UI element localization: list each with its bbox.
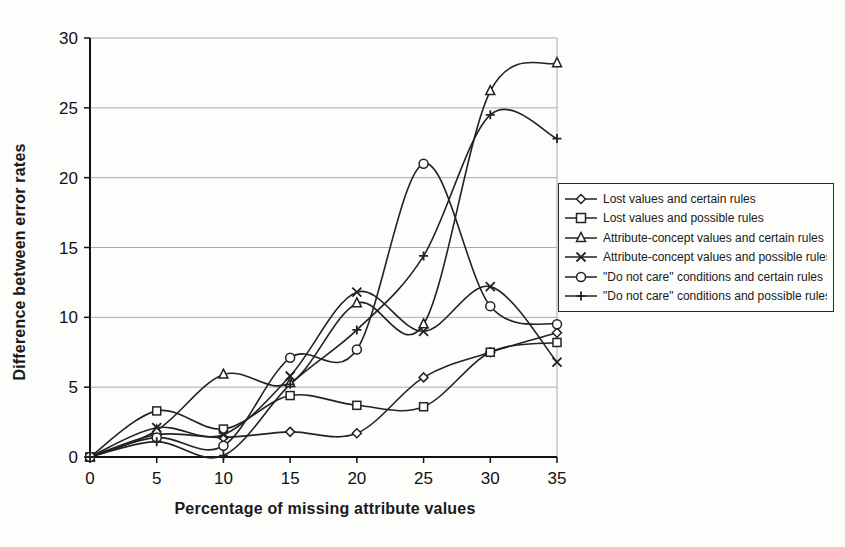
marker-square [486, 348, 494, 356]
x-tick-label-0: 0 [85, 469, 94, 488]
y-tick-label-0: 0 [69, 448, 78, 467]
legend-diamond-icon [565, 192, 597, 206]
x-tick-label-10: 10 [214, 469, 233, 488]
chart-legend: Lost values and certain rulesLost values… [558, 183, 834, 312]
marker-diamond [352, 429, 361, 438]
marker-diamond [286, 427, 295, 436]
marker-square [420, 403, 428, 411]
legend-square-icon [565, 211, 597, 225]
line-chart-figure: 05101520253005101520253035 Difference be… [0, 0, 845, 547]
x-tick-label-15: 15 [281, 469, 300, 488]
legend-label: Attribute-concept values and possible ru… [603, 250, 827, 264]
marker-circle [553, 320, 562, 329]
marker-square [286, 392, 294, 400]
legend-item-3: Attribute-concept values and certain rul… [565, 228, 827, 248]
marker-circle [286, 353, 295, 362]
x-tick-label-5: 5 [152, 469, 161, 488]
y-axis-title: Difference between error rates [11, 117, 35, 407]
marker-plus [219, 451, 228, 460]
marker-diamond [419, 373, 428, 382]
y-tick-label-10: 10 [59, 308, 78, 327]
y-tick-label-20: 20 [59, 169, 78, 188]
marker-triangle [553, 58, 562, 67]
legend-label: Lost values and possible rules [603, 211, 764, 225]
legend-item-4: Attribute-concept values and possible ru… [565, 248, 827, 268]
marker-circle [486, 302, 495, 311]
x-tick-label-35: 35 [548, 469, 567, 488]
legend-circle-icon [565, 270, 597, 284]
legend-label: "Do not care" conditions and possible ru… [603, 289, 827, 303]
legend-plus-icon [565, 289, 597, 303]
legend-label: Attribute-concept values and certain rul… [603, 231, 824, 245]
y-tick-label-25: 25 [59, 99, 78, 118]
legend-x-icon [565, 250, 597, 264]
legend-item-5: "Do not care" conditions and certain rul… [565, 267, 827, 287]
marker-square [353, 401, 361, 409]
x-tick-label-30: 30 [481, 469, 500, 488]
legend-item-6: "Do not care" conditions and possible ru… [565, 287, 827, 307]
x-tick-label-25: 25 [414, 469, 433, 488]
x-axis-title: Percentage of missing attribute values [110, 500, 540, 518]
marker-square [553, 338, 561, 346]
marker-square [153, 407, 161, 415]
marker-circle [219, 441, 228, 450]
marker-circle [352, 345, 361, 354]
marker-circle [419, 159, 428, 168]
y-tick-label-30: 30 [59, 29, 78, 48]
y-tick-label-5: 5 [69, 378, 78, 397]
legend-item-1: Lost values and certain rules [565, 189, 827, 209]
legend-triangle-icon [565, 231, 597, 245]
marker-plus [553, 134, 562, 143]
y-tick-label-15: 15 [59, 239, 78, 258]
x-tick-label-20: 20 [347, 469, 366, 488]
legend-label: "Do not care" conditions and certain rul… [603, 270, 823, 284]
legend-item-2: Lost values and possible rules [565, 209, 827, 229]
legend-label: Lost values and certain rules [603, 192, 756, 206]
marker-plus [419, 251, 428, 260]
